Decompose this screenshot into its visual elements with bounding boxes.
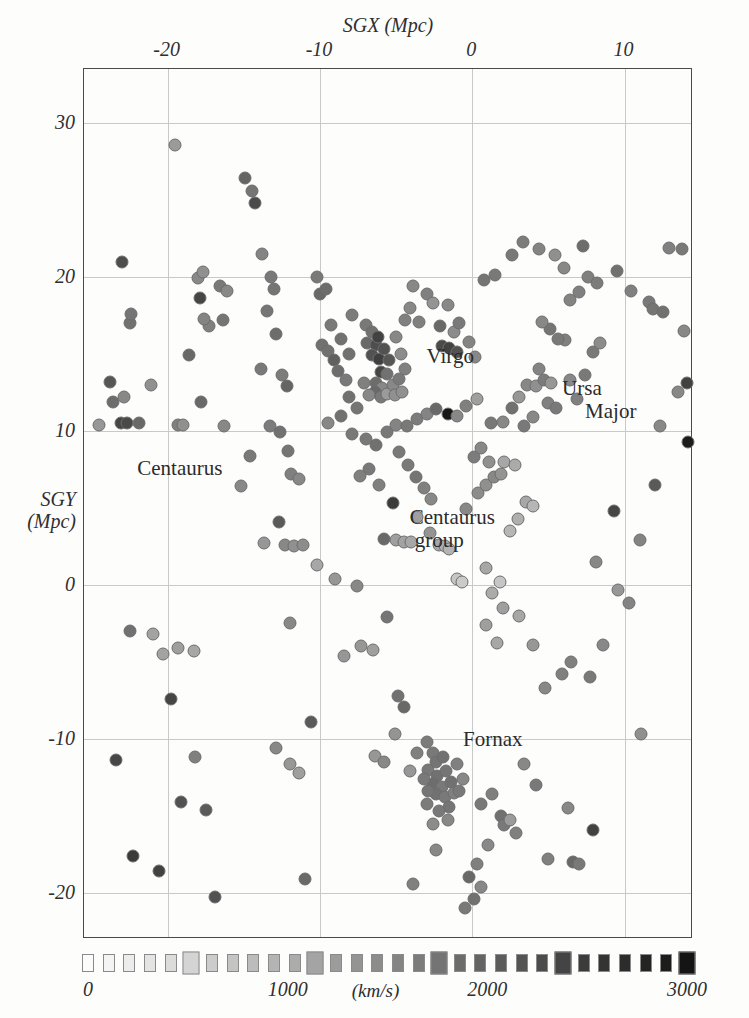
colorbar-tick-label: 1000	[268, 978, 308, 1001]
data-point	[304, 715, 317, 728]
data-point	[648, 478, 661, 491]
data-point	[350, 580, 363, 593]
y-axis-title-line2: (Mpc)	[27, 510, 76, 532]
cluster-label-line: Virgo	[427, 345, 474, 368]
cluster-label-fornax: Fornax	[463, 728, 523, 751]
y-tick-label: -10	[48, 726, 75, 749]
gridline-horizontal	[84, 893, 691, 894]
data-point	[530, 779, 543, 792]
data-point	[635, 728, 648, 741]
data-point	[126, 849, 139, 862]
data-point	[610, 264, 623, 277]
data-point	[394, 347, 407, 360]
data-point	[221, 284, 234, 297]
data-point	[496, 601, 509, 614]
colorbar-swatch	[431, 952, 448, 975]
x-tick-label: 10	[614, 38, 634, 61]
data-point	[545, 377, 558, 390]
data-point	[452, 785, 465, 798]
data-point	[490, 637, 503, 650]
data-point	[393, 446, 406, 459]
gridline-vertical	[320, 69, 321, 937]
data-point	[269, 327, 282, 340]
data-point	[539, 682, 552, 695]
scatter-figure: SGX (Mpc) SGY (Mpc) -20-100103020100-10-…	[0, 0, 749, 1018]
cluster-label-ursa-major: UrsaMajor	[562, 377, 636, 422]
data-point	[346, 309, 359, 322]
data-point	[342, 347, 355, 360]
data-point	[377, 532, 390, 545]
data-point	[382, 354, 395, 367]
colorbar-swatch	[247, 954, 259, 972]
data-point	[187, 645, 200, 658]
data-point	[195, 395, 208, 408]
data-point	[475, 797, 488, 810]
cluster-label-line: Ursa	[562, 377, 636, 400]
data-point	[175, 796, 188, 809]
data-point	[572, 286, 585, 299]
data-point	[441, 298, 454, 311]
data-point	[396, 386, 409, 399]
data-point	[441, 814, 454, 827]
data-point	[117, 391, 130, 404]
colorbar-swatch	[371, 954, 383, 972]
plot-area: VirgoUrsaMajorCentaurusCentaurusgroupFor…	[83, 68, 692, 938]
data-point	[403, 301, 416, 314]
colorbar-swatch	[82, 954, 94, 972]
colorbar-swatch	[413, 954, 425, 972]
data-point	[417, 772, 430, 785]
data-point	[548, 249, 561, 262]
data-point	[355, 640, 368, 653]
data-point	[269, 742, 282, 755]
colorbar-swatch	[144, 954, 156, 972]
data-point	[624, 284, 637, 297]
colorbar-swatch	[474, 954, 486, 972]
cluster-label-virgo: Virgo	[427, 345, 474, 368]
data-point	[297, 538, 310, 551]
data-point	[110, 754, 123, 767]
data-point	[481, 839, 494, 852]
data-point	[527, 638, 540, 651]
colorbar-swatch	[555, 952, 572, 975]
x-tick-label: 0	[466, 38, 476, 61]
data-point	[420, 797, 433, 810]
data-point	[475, 880, 488, 893]
data-point	[457, 772, 470, 785]
data-point	[429, 843, 442, 856]
data-point	[452, 317, 465, 330]
colorbar-swatch	[227, 954, 239, 972]
data-point	[123, 625, 136, 638]
data-point	[377, 755, 390, 768]
data-point	[292, 766, 305, 779]
data-point	[103, 375, 116, 388]
data-point	[280, 380, 293, 393]
data-point	[248, 197, 261, 210]
colorbar-swatch	[536, 954, 548, 972]
data-point	[486, 788, 499, 801]
data-point	[339, 374, 352, 387]
data-point	[426, 817, 439, 830]
data-point	[157, 648, 170, 661]
data-point	[557, 261, 570, 274]
gridline-vertical	[168, 69, 169, 937]
data-point	[676, 243, 689, 256]
data-point	[145, 378, 158, 391]
colorbar-swatch	[660, 954, 672, 972]
data-point	[583, 671, 596, 684]
data-point	[511, 512, 524, 525]
data-point	[164, 692, 177, 705]
data-point	[623, 597, 636, 610]
data-point	[426, 297, 439, 310]
data-point	[483, 455, 496, 468]
cluster-label-centaurus-group: Centaurusgroup	[410, 506, 495, 551]
colorbar-swatch	[392, 954, 404, 972]
colorbar-swatch	[123, 954, 135, 972]
data-point	[510, 826, 523, 839]
data-point	[268, 283, 281, 296]
data-point	[353, 469, 366, 482]
cluster-label-line: Major	[585, 400, 636, 423]
colorbar-tick-label: 3000	[667, 978, 707, 1001]
data-point	[662, 241, 675, 254]
cluster-label-line: Centaurus	[410, 506, 495, 529]
data-point	[256, 247, 269, 260]
